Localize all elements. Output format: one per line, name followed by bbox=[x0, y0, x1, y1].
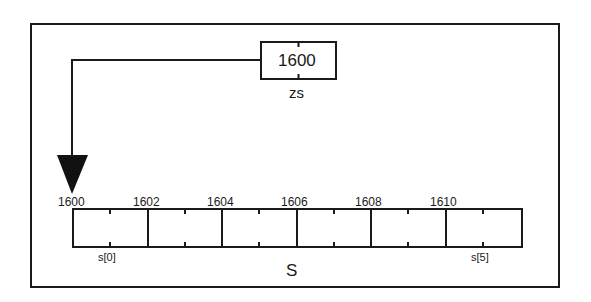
address-label: 1600 bbox=[58, 196, 85, 208]
address-label: 1602 bbox=[133, 196, 160, 208]
address-label: 1604 bbox=[207, 196, 234, 208]
index-label-last: s[5] bbox=[471, 252, 489, 263]
address-label: 1610 bbox=[430, 196, 457, 208]
address-label: 1608 bbox=[355, 196, 382, 208]
diagram-canvas bbox=[0, 0, 591, 302]
pointer-arrow-line bbox=[72, 60, 261, 156]
array-name: S bbox=[286, 262, 297, 279]
pointer-arrowhead-icon bbox=[57, 155, 88, 194]
index-label-first: s[0] bbox=[98, 252, 116, 263]
pointer-value: 1600 bbox=[278, 52, 316, 69]
address-label: 1606 bbox=[281, 196, 308, 208]
pointer-name: zs bbox=[289, 85, 304, 100]
